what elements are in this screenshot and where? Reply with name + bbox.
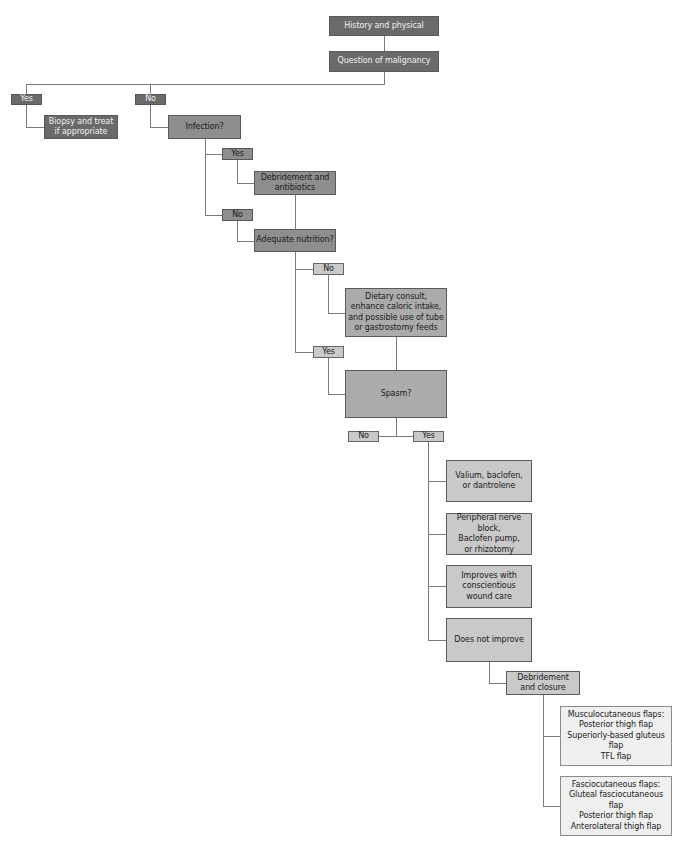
connector [328, 313, 345, 314]
connector [205, 139, 206, 215]
connector [328, 358, 329, 394]
connector [379, 436, 413, 437]
connector [543, 806, 560, 807]
connector [428, 534, 446, 535]
peripheral-nerve-block-node: Peripheral nerve block, Baclofen pump, o… [446, 513, 532, 555]
infection-no-label: No [222, 209, 253, 221]
connector [150, 84, 151, 94]
connector [384, 36, 385, 51]
connector [205, 215, 222, 216]
connector [150, 105, 151, 127]
fasciocutaneous-flaps-node: Fasciocutaneous flaps: Gluteal fasciocut… [560, 776, 672, 836]
connector [428, 640, 446, 641]
connector [428, 481, 446, 482]
connector [396, 337, 397, 370]
connector [543, 695, 544, 806]
connector [205, 154, 222, 155]
debridement-antibiotics-node: Debridement and antibiotics [254, 171, 336, 195]
connector [237, 221, 238, 241]
connector [150, 127, 168, 128]
connector [26, 105, 27, 127]
connector [237, 183, 254, 184]
infection-node: Infection? [168, 115, 241, 139]
connector [489, 683, 506, 684]
dietary-consult-node: Dietary consult, enhance caloric intake,… [345, 288, 447, 337]
infection-yes-label: Yes [222, 148, 253, 160]
connector [328, 394, 345, 395]
connector [26, 84, 385, 85]
biopsy-node: Biopsy and treat if appropriate [44, 115, 118, 139]
nutrition-no-label: No [313, 263, 344, 275]
connector [328, 275, 329, 313]
connector [295, 252, 296, 352]
connector [543, 736, 560, 737]
connector [295, 352, 313, 353]
musculocutaneous-flaps-node: Musculocutaneous flaps: Posterior thigh … [560, 706, 672, 766]
connector [295, 195, 296, 229]
connector [237, 160, 238, 183]
improves-wound-care-node: Improves with conscientious wound care [446, 565, 532, 608]
malignancy-no-label: No [135, 94, 166, 105]
connector [396, 418, 397, 436]
history-and-physical-node: History and physical [329, 16, 439, 36]
spasm-node: Spasm? [345, 370, 447, 418]
spasm-no-label: No [348, 431, 379, 442]
connector [295, 269, 313, 270]
connector [384, 72, 385, 84]
connector [237, 241, 254, 242]
does-not-improve-node: Does not improve [446, 618, 532, 662]
adequate-nutrition-node: Adequate nutrition? [254, 229, 336, 252]
nutrition-yes-label: Yes [313, 346, 344, 358]
spasm-yes-label: Yes [413, 431, 444, 442]
malignancy-yes-label: Yes [11, 94, 42, 105]
connector [428, 586, 446, 587]
question-of-malignancy-node: Question of malignancy [329, 51, 439, 72]
connector [26, 127, 44, 128]
connector [489, 662, 490, 683]
connector [26, 84, 27, 94]
debridement-closure-node: Debridement and closure [506, 671, 580, 695]
connector [428, 442, 429, 640]
valium-node: Valium, baclofen, or dantrolene [446, 460, 532, 502]
